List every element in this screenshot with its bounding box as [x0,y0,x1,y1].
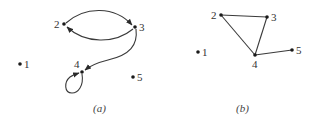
edge-a-3-to-2 [67,27,133,40]
node-a-5 [131,75,135,79]
node-a-1-label: 1 [24,58,30,70]
node-b-5-label: 5 [296,44,302,56]
node-a-2 [62,22,66,26]
edge-a-2-to-3 [66,10,132,25]
node-a-3 [133,25,137,29]
edge-b-2-4 [221,15,255,55]
edge-b-3-4 [255,17,267,55]
node-a-5-label: 5 [137,71,143,83]
node-b-4-label: 4 [252,58,258,70]
node-a-2-label: 2 [54,18,60,30]
node-b-2-label: 2 [211,9,217,21]
graph-b: 1 2 3 4 5 (b) [196,9,302,115]
edge-b-2-3 [221,15,267,17]
node-b-1 [196,50,200,54]
node-b-2 [219,13,223,17]
node-b-5 [290,48,294,52]
caption-b: (b) [236,102,249,115]
edge-b-4-5 [255,50,292,55]
edge-a-3-to-4 [85,29,136,70]
graph-a: 1 2 3 4 5 (a) [18,10,145,115]
caption-a: (a) [93,102,106,115]
edge-a-4-self-loop [66,73,83,93]
node-b-1-label: 1 [202,46,208,58]
graph-figure-svg: 1 2 3 4 5 (a) 1 2 3 4 5 [0,0,310,123]
node-a-4-label: 4 [74,58,80,70]
node-a-1 [18,62,22,66]
figure: 1 2 3 4 5 (a) 1 2 3 4 5 [0,0,310,123]
node-a-4 [80,70,84,74]
node-b-3 [265,15,269,19]
node-b-4 [253,53,257,57]
node-a-3-label: 3 [139,21,145,33]
node-b-3-label: 3 [271,11,277,23]
